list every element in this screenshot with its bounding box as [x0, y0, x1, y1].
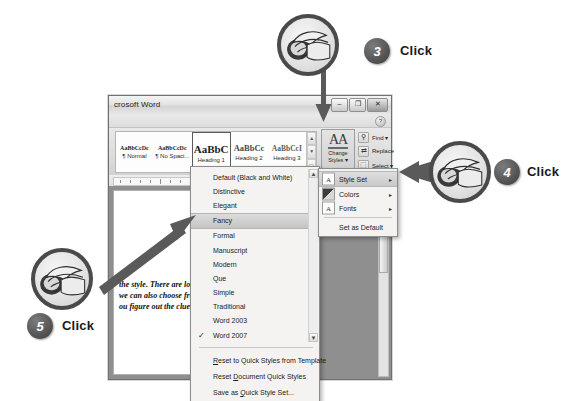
style-sample: AaBbCcI — [272, 144, 302, 153]
menu-item-traditional[interactable]: Traditional — [191, 300, 319, 314]
change-styles-label-line2: Styles ▾ — [322, 157, 354, 164]
menu-item-default[interactable]: Default (Black and White) — [191, 170, 319, 184]
menu-item-word-2007[interactable]: ✓ Word 2007 — [191, 328, 319, 342]
menu-item-reset-document-quick-styles[interactable]: Reset Document Quick Styles — [191, 368, 319, 384]
step-badge-3: 3 — [364, 38, 390, 64]
menu-item-modern[interactable]: Modern — [191, 257, 319, 271]
menu-item-label: Que — [213, 275, 226, 282]
style-label: Heading 3 — [273, 155, 300, 161]
style-set-list: ▲ ▼ Default (Black and White) Distinctiv… — [191, 167, 319, 344]
step-badge-4: 4 — [494, 159, 520, 185]
gallery-scroll-up-icon[interactable]: ▲ — [307, 132, 316, 145]
menu-item-label: Style Set — [339, 176, 367, 183]
menu-item-fonts[interactable]: A Fonts ▸ — [319, 201, 397, 215]
change-styles-menu: A Style Set ▸ Colors ▸ A Fonts ▸ Set as … — [318, 168, 398, 237]
style-label: ¶ Normal — [122, 153, 146, 159]
menu-item-manuscript[interactable]: Manuscript — [191, 243, 319, 257]
style-sample: AaBbC — [194, 143, 229, 155]
step-action-5: Click — [62, 318, 94, 333]
find-label: Find ▾ — [372, 134, 388, 141]
menu-item-label: Word 2003 — [213, 317, 247, 324]
colors-icon — [322, 188, 335, 201]
menu-item-label: Traditional — [213, 303, 245, 310]
hand-illustration-5 — [31, 248, 93, 310]
find-icon: ⚲ — [358, 132, 369, 143]
checkmark-icon: ✓ — [198, 331, 205, 340]
menu-item-label: Save as Quick Style Set... — [213, 389, 294, 396]
step-action-3: Click — [400, 43, 432, 58]
menu-item-label: Word 2007 — [213, 332, 247, 339]
illustration-stage: crosoft Word – ❐ ✕ ? AaBbCcDc ¶ Normal A… — [0, 0, 570, 401]
chevron-right-icon: ▸ — [389, 205, 392, 212]
find-button[interactable]: ⚲ Find ▾ — [358, 130, 398, 144]
hand-illustration-4 — [429, 141, 491, 203]
ribbon-tabstrip — [109, 115, 391, 128]
style-sample: AaBbCcDc — [158, 145, 187, 151]
replace-label: Replace — [372, 148, 394, 154]
restore-button[interactable]: ❐ — [349, 98, 366, 112]
menu-item-reset-to-quick-styles[interactable]: Reset to Quick Styles from Template — [191, 352, 319, 368]
style-set-dropdown: ▲ ▼ Default (Black and White) Distinctiv… — [190, 166, 320, 401]
menu-item-label: Manuscript — [213, 247, 247, 254]
close-button[interactable]: ✕ — [367, 98, 388, 112]
style-sample: AaBbCc — [234, 143, 265, 153]
menu-item-label: Fancy — [213, 217, 232, 224]
hand-cursor-icon — [35, 252, 89, 306]
style-set-icon: A — [322, 173, 335, 186]
menu-item-que[interactable]: Que — [191, 271, 319, 285]
menu-item-elegant[interactable]: Elegant — [191, 198, 319, 212]
menu-item-label: Colors — [339, 191, 359, 198]
style-label: Heading 1 — [197, 157, 224, 163]
menu-item-label: Distinctive — [213, 188, 245, 195]
menu-item-style-set[interactable]: A Style Set ▸ — [319, 171, 397, 187]
menu-divider — [324, 217, 392, 218]
menu-item-simple[interactable]: Simple — [191, 286, 319, 300]
style-item-no-spacing[interactable]: AaBbCcDc ¶ No Spaci... — [154, 132, 192, 172]
hand-illustration-3 — [277, 14, 339, 76]
menu-item-formal[interactable]: Formal — [191, 229, 319, 243]
change-styles-icon: AA — [322, 132, 354, 147]
chevron-right-icon: ▸ — [389, 191, 392, 198]
window-controls: – ❐ ✕ — [331, 98, 388, 112]
window-titlebar: crosoft Word – ❐ ✕ — [109, 96, 391, 116]
fonts-icon: A — [322, 202, 335, 215]
menu-item-word-2003[interactable]: Word 2003 — [191, 314, 319, 328]
menu-item-label: Default (Black and White) — [213, 174, 292, 181]
menu-item-save-as-quick-style-set[interactable]: Save as Quick Style Set... — [191, 384, 319, 400]
hand-cursor-icon — [433, 145, 487, 199]
style-label: ¶ No Spaci... — [155, 153, 189, 159]
menu-item-label: Formal — [213, 232, 235, 239]
menu-item-label: Reset Document Quick Styles — [213, 373, 306, 380]
editing-group: ⚲ Find ▾ ⇄ Replace ⬚ Select ▾ — [358, 130, 398, 172]
chevron-right-icon: ▸ — [389, 176, 392, 183]
menu-divider — [199, 347, 313, 348]
style-set-commands: Reset to Quick Styles from Template Rese… — [191, 351, 319, 401]
style-item-normal[interactable]: AaBbCcDc ¶ Normal — [116, 132, 154, 172]
replace-icon: ⇄ — [358, 146, 369, 157]
menu-item-label: Elegant — [213, 202, 237, 209]
menu-item-label: Set as Default — [339, 224, 383, 231]
step-action-4: Click — [527, 164, 559, 179]
step-badge-5: 5 — [27, 313, 53, 339]
window-title: crosoft Word — [114, 100, 160, 109]
style-sample: AaBbCcDc — [120, 145, 149, 151]
minimize-button[interactable]: – — [331, 98, 348, 112]
hand-cursor-icon — [281, 18, 335, 72]
menu-item-label: Reset to Quick Styles from Template — [213, 357, 326, 364]
change-styles-underline — [328, 147, 348, 149]
menu-item-colors[interactable]: Colors ▸ — [319, 187, 397, 201]
menu-item-label: Fonts — [339, 205, 357, 212]
gallery-scroll-down-icon[interactable]: ▼ — [307, 145, 316, 158]
replace-button[interactable]: ⇄ Replace — [358, 144, 398, 158]
menu-item-set-as-default[interactable]: Set as Default — [319, 220, 397, 234]
menu-item-distinctive[interactable]: Distinctive — [191, 184, 319, 198]
menu-item-label: Modern — [213, 261, 237, 268]
help-icon[interactable]: ? — [375, 116, 386, 127]
menu-item-fancy[interactable]: Fancy — [191, 213, 308, 229]
style-label: Heading 2 — [235, 155, 262, 161]
menu-item-label: Simple — [213, 289, 234, 296]
